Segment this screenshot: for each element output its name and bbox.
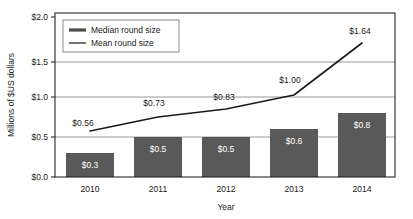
line-label-2013: $1.00 xyxy=(279,75,301,85)
y-axis-title: Millions of $US dollars xyxy=(6,53,16,137)
line-label-2012: $0.83 xyxy=(213,92,235,102)
xtick-label-2010: 2010 xyxy=(81,184,100,194)
y-axis-tick-labels: $2.0 $1.5 $1.0 $0.5 $0.0 xyxy=(31,12,48,182)
x-axis-title: Year xyxy=(217,202,234,212)
legend-label-mean-round-size: Mean round size xyxy=(91,38,154,48)
line-label-2011: $0.73 xyxy=(143,98,165,108)
bar-label-2010: $0.3 xyxy=(82,160,99,170)
ytick-label-1-0: $1.0 xyxy=(31,92,48,102)
ytick-label-0-5: $0.5 xyxy=(31,132,48,142)
line-label-2010: $0.56 xyxy=(72,118,94,128)
bar-label-2013: $0.6 xyxy=(286,136,303,146)
chart-canvas: $0.3 $0.5 $0.5 $0.6 $0.8 $0.56 $0.73 $0.… xyxy=(0,0,413,219)
bar-label-2011: $0.5 xyxy=(150,144,167,154)
xtick-label-2014: 2014 xyxy=(353,184,372,194)
bar-2012 xyxy=(202,137,250,177)
ytick-label-0-0: $0.0 xyxy=(31,172,48,182)
chart-container: $0.3 $0.5 $0.5 $0.6 $0.8 $0.56 $0.73 $0.… xyxy=(0,0,413,219)
legend-label-median-round-size: Median round size xyxy=(91,25,161,35)
xtick-label-2011: 2011 xyxy=(149,184,168,194)
xtick-label-2012: 2012 xyxy=(217,184,236,194)
ytick-label-1-5: $1.5 xyxy=(31,57,48,67)
y-axis-ticks xyxy=(51,17,55,177)
legend: Median round size Mean round size xyxy=(63,20,179,52)
bar-2011 xyxy=(134,137,182,177)
bar-label-2012: $0.5 xyxy=(218,144,235,154)
x-axis-tick-labels: 2010 2011 2012 2013 2014 xyxy=(81,184,372,194)
xtick-label-2013: 2013 xyxy=(285,184,304,194)
bar-label-2014: $0.8 xyxy=(354,120,371,130)
ytick-label-2-0: $2.0 xyxy=(31,12,48,22)
line-label-2014: $1.64 xyxy=(349,26,371,36)
